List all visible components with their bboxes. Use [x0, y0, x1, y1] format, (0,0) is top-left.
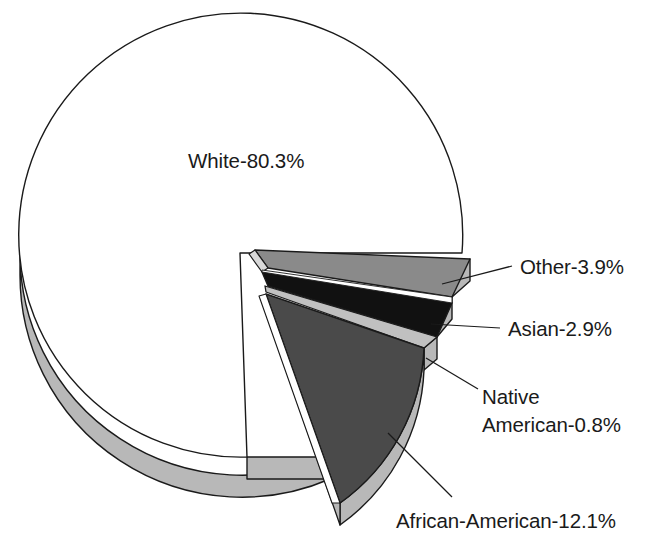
native-american-leader-line [426, 358, 478, 389]
african-american-slice-label: African-American-12.1% [396, 509, 616, 532]
asian-slice-label: Asian-2.9% [508, 317, 612, 340]
african-american-leader-line [388, 433, 452, 497]
white-slice-label: White-80.3% [188, 149, 304, 172]
pie-chart-figure: White-80.3% Other-3.9% Asian-2.9% Native… [0, 0, 656, 544]
other-slice-label: Other-3.9% [520, 255, 624, 278]
pie-chart-canvas: White-80.3% Other-3.9% Asian-2.9% Native… [0, 0, 656, 544]
native-american-slice-label-line1: Native [482, 385, 540, 408]
native-american-slice-label-line2: American-0.8% [482, 413, 621, 436]
